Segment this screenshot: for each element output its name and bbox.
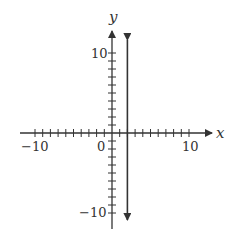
origin-label: 0 xyxy=(97,139,105,154)
coordinate-plane: y x −10 0 10 10 −10 xyxy=(0,0,227,229)
x-tick-label-10: 10 xyxy=(182,139,199,154)
y-tick-label-neg10: −10 xyxy=(79,205,106,220)
y-axis-label: y xyxy=(108,8,118,26)
x-tick-label-neg10: −10 xyxy=(21,139,48,154)
x-axis-label: x xyxy=(216,124,225,142)
y-tick-label-10: 10 xyxy=(91,46,108,61)
